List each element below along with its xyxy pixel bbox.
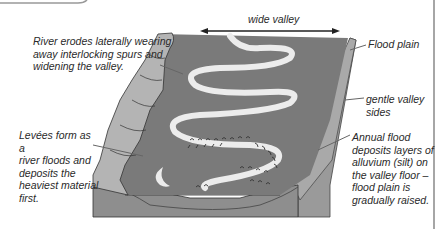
wide-valley-arrow — [200, 28, 340, 34]
label-river-erodes: River erodes laterally wearing away inte… — [33, 35, 193, 73]
label-wide-valley: wide valley — [248, 13, 299, 26]
label-gentle-valley-sides: gentle valley sides — [366, 93, 424, 118]
label-levees: Levées form as a river floods and deposi… — [19, 129, 99, 204]
label-annual-flood: Annual flood deposits layers of alluvium… — [352, 131, 434, 206]
label-flood-plain: Flood plain — [368, 38, 419, 51]
top-frame-line — [0, 0, 87, 3]
